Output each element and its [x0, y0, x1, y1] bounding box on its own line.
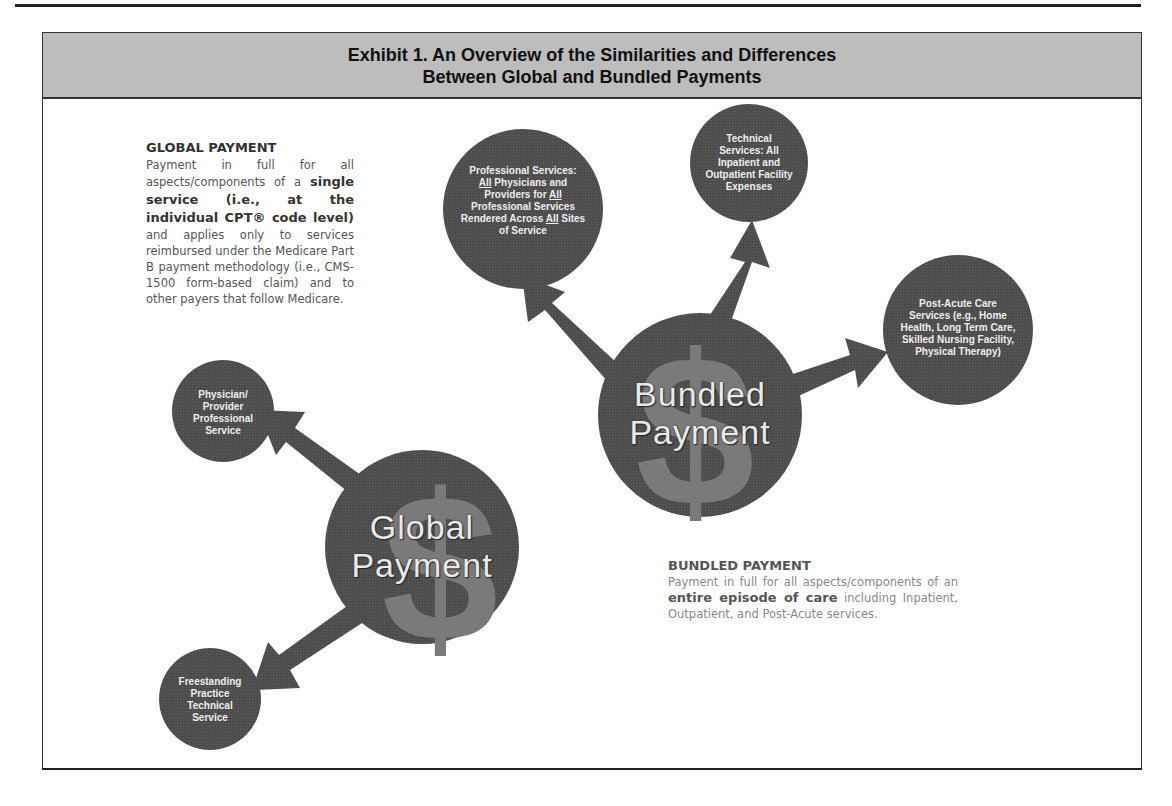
- bundled-label-line1: Bundled: [605, 375, 795, 413]
- global-label-line1: Global: [337, 508, 507, 546]
- global-node-physician-label: Physician/ Provider Professional Service: [183, 389, 263, 437]
- bundled-node-technical-label: Technical Services: All Inpatient and Ou…: [703, 133, 795, 193]
- global-payment-text-rest: and applies only to services reimbursed …: [146, 228, 354, 306]
- global-node-freestanding-label: Freestanding Practice Technical Service: [170, 676, 250, 724]
- global-label-line2: Payment: [337, 546, 507, 584]
- global-center-label: Global Payment: [337, 508, 507, 584]
- global-payment-description: GLOBAL PAYMENT Payment in full for all a…: [146, 139, 354, 307]
- bundled-payment-text-bold: entire episode of care: [668, 590, 838, 605]
- bundled-payment-heading: BUNDLED PAYMENT: [668, 558, 958, 574]
- global-payment-heading: GLOBAL PAYMENT: [146, 139, 354, 157]
- bundled-payment-text-intro: Payment in full for all aspects/componen…: [668, 575, 958, 589]
- bundled-center-label: Bundled Payment: [605, 375, 795, 451]
- bundled-label-line2: Payment: [605, 413, 795, 451]
- bundled-payment-description: BUNDLED PAYMENT Payment in full for all …: [668, 558, 958, 622]
- bundled-node-postacute-label: Post-Acute Care Services (e.g., Home Hea…: [900, 298, 1016, 358]
- bundled-node-professional-label: Professional Services: All Physicians an…: [460, 165, 586, 237]
